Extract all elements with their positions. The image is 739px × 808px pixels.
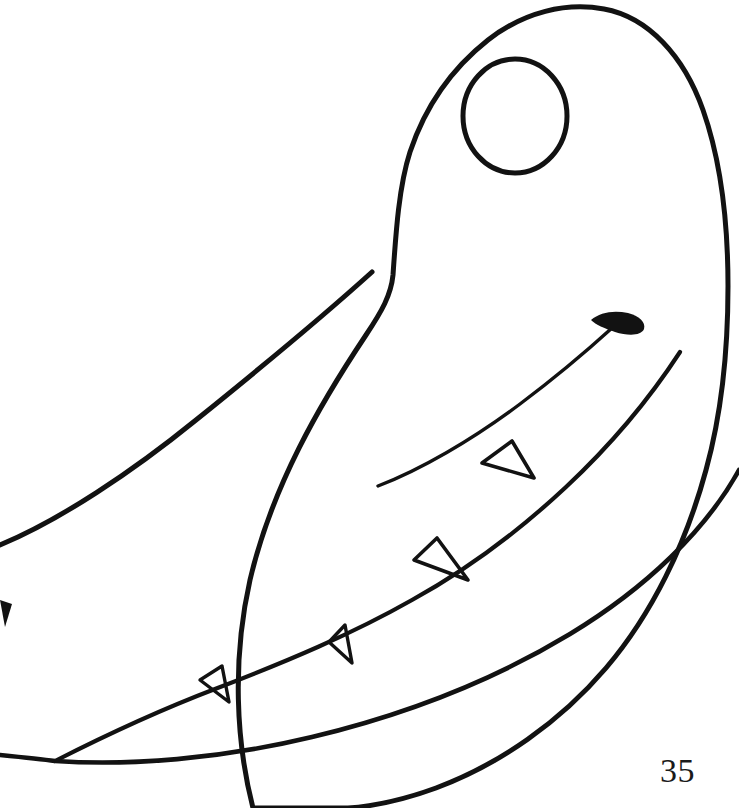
crocodile-line-drawing xyxy=(0,0,739,808)
snout-ridge-path xyxy=(0,272,372,545)
nostril-mark xyxy=(591,312,644,335)
page-number: 35 xyxy=(660,754,695,788)
tooth-4 xyxy=(200,666,229,702)
lower-jaw-line-path xyxy=(0,470,739,763)
tooth-2 xyxy=(414,538,468,580)
left-edge-tooth xyxy=(0,600,12,627)
upper-jaw-line-path xyxy=(55,352,680,761)
mouth-line-path xyxy=(378,328,612,486)
tooth-1 xyxy=(482,441,534,478)
coloring-page: 35 xyxy=(0,0,739,808)
eye-icon xyxy=(463,59,567,173)
head-outline-path xyxy=(238,7,728,808)
